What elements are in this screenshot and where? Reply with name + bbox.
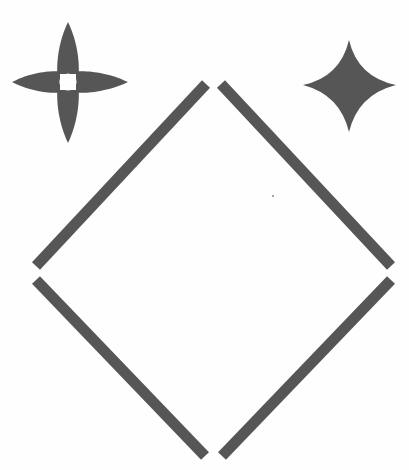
figure-canvas (0, 0, 409, 470)
flower-center-gap (59, 73, 76, 90)
abstract-figure (0, 0, 409, 470)
stray-ink-speck (272, 195, 274, 197)
